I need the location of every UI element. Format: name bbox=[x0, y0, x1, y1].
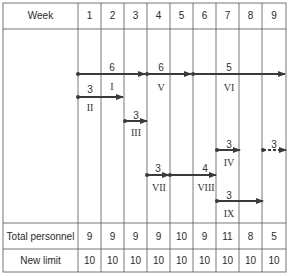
total-personnel-value: 9 bbox=[147, 231, 170, 242]
week-number: 9 bbox=[262, 10, 286, 21]
total-personnel-value: 9 bbox=[124, 231, 147, 242]
week-header-label: Week bbox=[3, 10, 78, 21]
total-personnel-value: 9 bbox=[78, 231, 101, 242]
activity-label-VI: VI bbox=[219, 82, 239, 93]
week-number: 7 bbox=[216, 10, 239, 21]
new-limit-value: 10 bbox=[101, 255, 124, 266]
week-number: 4 bbox=[147, 10, 170, 21]
arrow-activity-II bbox=[76, 95, 123, 99]
personnel-label-II: 3 bbox=[83, 84, 97, 95]
personnel-label-VI: 5 bbox=[222, 62, 236, 73]
activity-label-II: II bbox=[82, 102, 98, 113]
personnel-label-VII: 3 bbox=[151, 163, 165, 174]
arrow-activity-VI bbox=[191, 72, 285, 76]
activity-label-IX: IX bbox=[219, 208, 239, 219]
week-number: 6 bbox=[193, 10, 216, 21]
activity-label-VIII: VIII bbox=[193, 182, 219, 193]
new-limit-value: 10 bbox=[170, 255, 193, 266]
new-limit-value: 10 bbox=[239, 255, 262, 266]
week-number: 8 bbox=[239, 10, 262, 21]
week-number: 5 bbox=[170, 10, 193, 21]
activity-label-III: III bbox=[126, 127, 146, 138]
new-limit-value: 10 bbox=[193, 255, 216, 266]
personnel-label-IV: 3 bbox=[222, 139, 236, 150]
total-personnel-value: 11 bbox=[216, 231, 239, 242]
activity-label-VII: VII bbox=[148, 182, 170, 193]
personnel-label-I: 6 bbox=[105, 62, 119, 73]
total-personnel-value: 9 bbox=[101, 231, 124, 242]
new-limit-value: 10 bbox=[216, 255, 239, 266]
total-personnel-value: 5 bbox=[262, 231, 286, 242]
total-personnel-value: 9 bbox=[193, 231, 216, 242]
activity-label-I: I bbox=[105, 81, 119, 92]
activity-label-IV: IV bbox=[219, 157, 239, 168]
new-limit-value: 10 bbox=[262, 255, 286, 266]
personnel-label-V: 6 bbox=[154, 62, 168, 73]
personnel-label-IV-continuation: 3 bbox=[267, 139, 281, 150]
new-limit-label: New limit bbox=[3, 255, 78, 266]
activity-label-V: V bbox=[154, 82, 168, 93]
total-personnel-label: Total personnel bbox=[3, 231, 78, 242]
personnel-label-III: 3 bbox=[129, 110, 143, 121]
new-limit-value: 10 bbox=[147, 255, 170, 266]
new-limit-value: 10 bbox=[124, 255, 147, 266]
arrow-activity-V bbox=[145, 72, 191, 76]
personnel-label-IX: 3 bbox=[222, 190, 236, 201]
total-personnel-value: 10 bbox=[170, 231, 193, 242]
week-number: 1 bbox=[78, 10, 101, 21]
week-number: 2 bbox=[101, 10, 124, 21]
total-personnel-value: 8 bbox=[239, 231, 262, 242]
week-number: 3 bbox=[124, 10, 147, 21]
new-limit-value: 10 bbox=[78, 255, 101, 266]
personnel-label-VIII: 4 bbox=[198, 163, 212, 174]
